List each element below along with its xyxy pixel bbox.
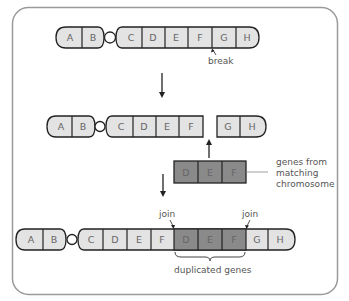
duplicated-chromosome: A B C D E F D E F G H bbox=[16, 229, 295, 250]
join-right-label: join bbox=[241, 209, 258, 219]
break-label: break bbox=[208, 56, 234, 66]
insert-label-line-1: genes from bbox=[276, 157, 327, 167]
matching-chromosome-segment: D E F bbox=[174, 161, 246, 183]
gene-c: C bbox=[118, 121, 125, 132]
gene-f: F bbox=[159, 234, 164, 245]
gene-f-dup: F bbox=[231, 234, 236, 245]
gene-b: B bbox=[80, 121, 87, 132]
gene-e: E bbox=[136, 234, 142, 245]
gene-c: C bbox=[88, 234, 95, 245]
gene-e-dup: E bbox=[207, 167, 213, 178]
gene-b: B bbox=[90, 32, 97, 43]
insert-label-line-3: chromosome bbox=[276, 179, 335, 189]
centromere-icon bbox=[67, 235, 77, 245]
diagram-frame bbox=[13, 8, 338, 295]
gene-g: G bbox=[224, 121, 231, 132]
gene-f-dup: F bbox=[231, 167, 236, 178]
gene-f: F bbox=[197, 32, 202, 43]
gene-e: E bbox=[164, 121, 170, 132]
gene-d-dup: D bbox=[182, 167, 189, 178]
gene-d: D bbox=[111, 234, 118, 245]
gene-e-dup: E bbox=[207, 234, 213, 245]
gene-h: H bbox=[243, 32, 250, 43]
gene-h: H bbox=[276, 234, 283, 245]
gene-c: C bbox=[128, 32, 135, 43]
gene-a: A bbox=[28, 234, 35, 245]
gene-d: D bbox=[140, 121, 147, 132]
gene-h: H bbox=[248, 121, 255, 132]
centromere-icon bbox=[105, 32, 116, 43]
gene-d: D bbox=[149, 32, 156, 43]
duplicated-genes-label: duplicated genes bbox=[174, 265, 252, 275]
gene-g: G bbox=[220, 32, 227, 43]
gene-d-dup: D bbox=[182, 234, 189, 245]
gene-e: E bbox=[173, 32, 179, 43]
join-left-label: join bbox=[158, 209, 175, 219]
gene-b: B bbox=[51, 234, 58, 245]
gene-duplication-diagram: A B C D E F G H break A B C D E F G H bbox=[0, 0, 349, 301]
gene-a: A bbox=[58, 121, 65, 132]
insert-label-line-2: matching bbox=[276, 168, 318, 178]
centromere-icon bbox=[95, 122, 105, 132]
gene-a: A bbox=[67, 32, 74, 43]
gene-g: G bbox=[253, 234, 260, 245]
broken-chromosome: A B C D E F G H bbox=[47, 116, 266, 137]
original-chromosome: A B C D E F G H bbox=[56, 27, 259, 48]
gene-f: F bbox=[188, 121, 193, 132]
